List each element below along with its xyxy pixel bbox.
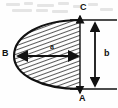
point-label-B: B — [2, 49, 9, 58]
dimension-label-a: a — [50, 43, 54, 50]
dimension-label-b: b — [104, 49, 110, 58]
hatched-parabolic-region — [0, 0, 118, 108]
point-label-A: A — [79, 94, 86, 103]
point-label-C: C — [80, 3, 87, 12]
parabola-figure: A B C a b — [0, 0, 118, 108]
diagram-canvas — [0, 0, 118, 108]
